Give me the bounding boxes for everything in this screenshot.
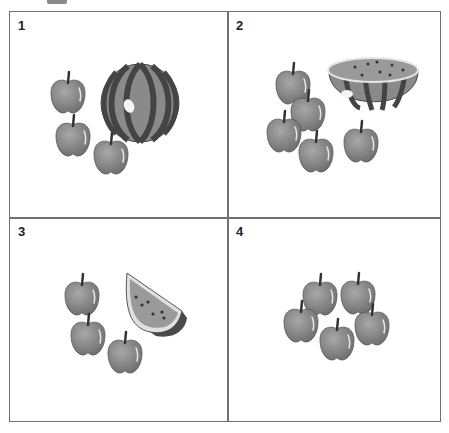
panel-number: 1 [18, 18, 25, 33]
panel-2: 2 [228, 12, 442, 217]
panel-number: 3 [18, 224, 25, 239]
panel-4: 4 [228, 218, 442, 423]
picture-grid: 1 2 3 4 [9, 11, 441, 422]
top-tab-marker [47, 0, 67, 4]
panel-1: 1 [10, 12, 227, 217]
panel-number: 4 [236, 224, 243, 239]
panel-number: 2 [236, 18, 243, 33]
panel-3: 3 [10, 218, 227, 423]
